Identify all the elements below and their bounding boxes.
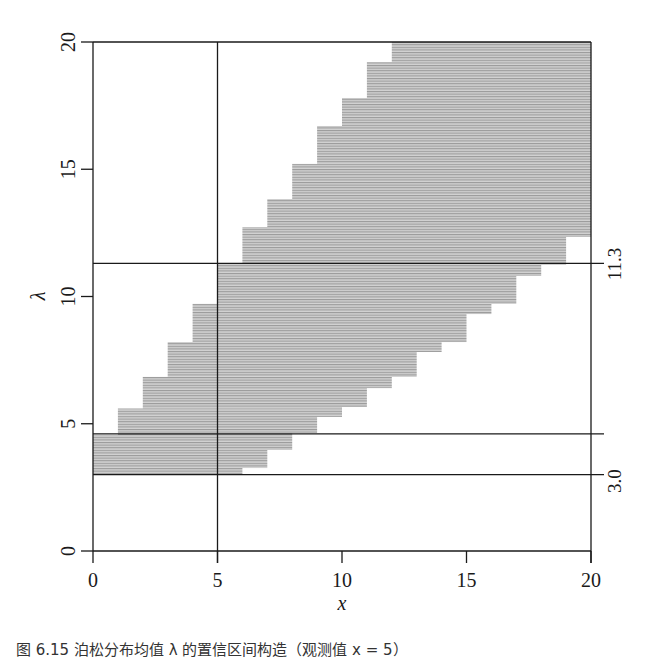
belt-band — [392, 42, 591, 62]
belt-band — [193, 314, 467, 342]
belt-band — [143, 388, 367, 407]
y-axis-label: λ — [27, 291, 49, 301]
belt-band — [93, 435, 292, 450]
right-label-3-0: 3.0 — [604, 469, 625, 493]
y-tick-label: 0 — [57, 546, 79, 556]
belt-band — [267, 199, 591, 227]
belt-band — [242, 227, 591, 237]
belt-band — [143, 407, 342, 409]
belt-band — [292, 164, 591, 199]
belt-band — [193, 304, 492, 314]
y-tick-label: 10 — [57, 287, 79, 307]
belt-band — [118, 408, 342, 416]
x-tick-label: 10 — [332, 569, 352, 591]
belt-band — [218, 264, 567, 265]
belt-band — [168, 342, 442, 352]
x-axis-ticks: 05101520 — [88, 551, 601, 591]
belt-band — [93, 468, 242, 475]
belt-band — [242, 237, 566, 264]
figure-caption: 图 6.15 泊松分布均值 λ 的置信区间构造（观测值 x = 5） — [16, 638, 408, 659]
y-tick-label: 5 — [57, 419, 79, 429]
belt-band — [218, 265, 542, 276]
x-axis-label: x — [337, 592, 347, 614]
confidence-belt-region — [93, 42, 591, 475]
belt-band — [342, 98, 591, 126]
y-axis-ticks: 05101520 — [57, 32, 93, 556]
belt-band — [143, 377, 392, 388]
y-tick-label: 15 — [57, 159, 79, 179]
x-tick-label: 20 — [581, 569, 601, 591]
right-label-11-3: 11.3 — [604, 248, 625, 281]
belt-band — [367, 62, 591, 98]
y-tick-label: 20 — [57, 32, 79, 52]
belt-band — [317, 126, 591, 164]
belt-band — [218, 276, 517, 304]
x-tick-label: 5 — [213, 569, 223, 591]
belt-band — [93, 450, 267, 468]
x-tick-label: 15 — [457, 569, 477, 591]
belt-band — [168, 352, 417, 377]
x-tick-label: 0 — [88, 569, 98, 591]
